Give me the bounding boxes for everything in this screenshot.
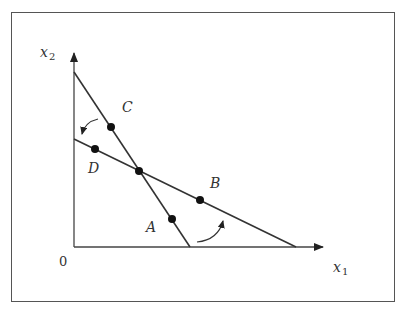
intersection-point (135, 167, 143, 175)
point-b (196, 196, 204, 204)
rotation-arrow-upper-icon (82, 119, 98, 134)
label-b: B (209, 175, 220, 191)
point-d (91, 145, 99, 153)
shallow-line (74, 139, 296, 247)
origin-label: 0 (59, 254, 67, 269)
diagram-canvas: A B C D x 2 x 1 0 (0, 0, 405, 314)
rotation-arrow-lower-icon (197, 221, 223, 242)
point-c (107, 123, 115, 131)
x-axis-subscript: 1 (342, 266, 348, 277)
x-axis-label: x (333, 259, 341, 275)
label-a: A (144, 219, 156, 235)
label-d: D (87, 160, 99, 176)
label-c: C (122, 99, 133, 115)
y-axis-subscript: 2 (49, 51, 55, 62)
point-a (168, 215, 176, 223)
y-axis-label: x (40, 44, 48, 60)
